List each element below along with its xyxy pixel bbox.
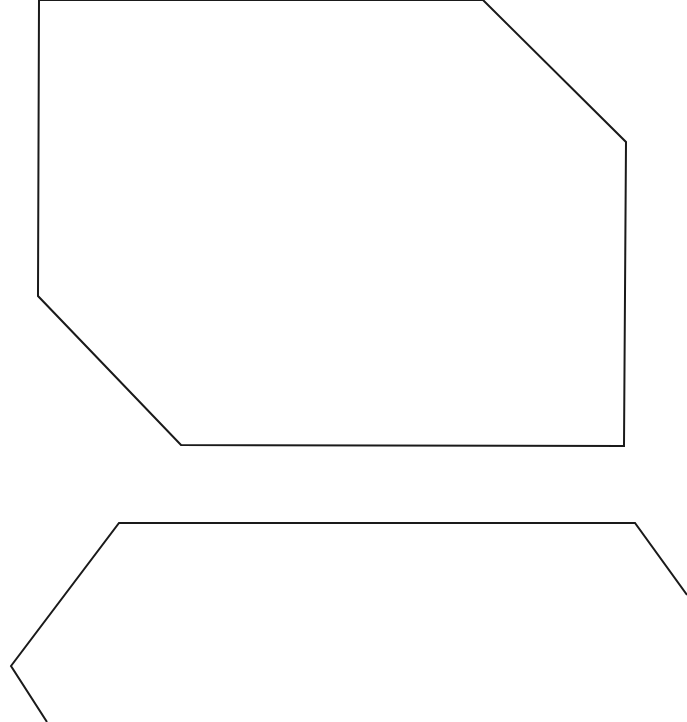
top-octagon-shape	[38, 0, 626, 446]
shapes-svg	[0, 0, 687, 722]
diagram-canvas	[0, 0, 687, 722]
bottom-hexagon-shape	[11, 523, 687, 722]
